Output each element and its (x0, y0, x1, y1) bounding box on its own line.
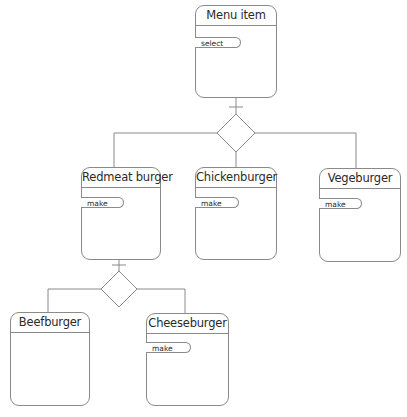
generalization-diamond-1 (217, 114, 255, 152)
operation-make[interactable]: make (81, 197, 124, 208)
operation-select[interactable]: select (195, 37, 241, 48)
class-redmeat-burger[interactable]: Redmeat burger make (81, 167, 161, 260)
class-name: Redmeat burger (82, 168, 160, 188)
operation-make[interactable]: make (319, 198, 362, 209)
class-name: Chickenburger (196, 168, 276, 188)
operation-make[interactable]: make (146, 342, 191, 353)
class-chickenburger[interactable]: Chickenburger make (195, 167, 277, 260)
class-name: Beefburger (11, 313, 89, 333)
generalization-diamond-2 (101, 271, 137, 307)
operation-make[interactable]: make (195, 197, 239, 208)
class-cheeseburger[interactable]: Cheeseburger make (146, 313, 229, 406)
class-vegeburger[interactable]: Vegeburger make (319, 168, 401, 262)
class-beefburger[interactable]: Beefburger (10, 312, 90, 406)
class-name: Vegeburger (320, 169, 400, 189)
class-name: Cheeseburger (147, 314, 228, 334)
class-menu-item[interactable]: Menu item select (195, 5, 277, 98)
class-name: Menu item (196, 6, 276, 26)
